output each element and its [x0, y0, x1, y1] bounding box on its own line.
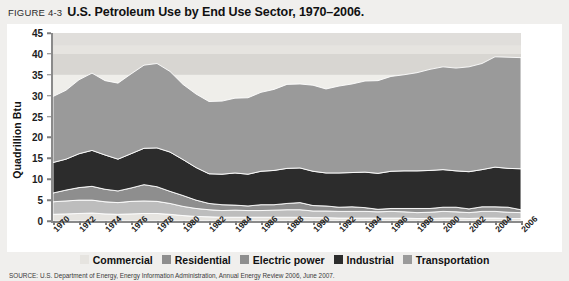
legend-swatch-icon [334, 255, 343, 264]
y-axis-tick-label: 35 [32, 69, 43, 80]
legend-item-commercial[interactable]: Commercial [80, 254, 153, 266]
legend-item-residential[interactable]: Residential [162, 254, 231, 266]
figure-source-text: SOURCE: U.S. Department of Energy, Energ… [9, 272, 335, 279]
x-axis-tick-label: 2006 [519, 214, 539, 234]
plot-area [53, 33, 521, 221]
background-band [53, 46, 521, 54]
figure-caption: FIGURE 4-3 U.S. Petroleum Use by End Use… [8, 5, 561, 21]
legend-item-industrial[interactable]: Industrial [334, 254, 394, 266]
legend-swatch-icon [240, 255, 249, 264]
chart-panel: Quadrillion Btu 051015202530354045 19701… [7, 24, 562, 252]
background-band [53, 33, 521, 46]
y-axis-tick-label: 45 [32, 28, 43, 39]
legend-swatch-icon [80, 255, 89, 264]
legend-swatch-icon [162, 255, 171, 264]
y-axis-tick-label: 0 [37, 216, 43, 227]
y-axis-tick-label: 30 [32, 90, 43, 101]
y-axis-tick-label: 25 [32, 111, 43, 122]
legend-label: Industrial [347, 254, 394, 266]
legend-label: Residential [175, 254, 231, 266]
figure-title: U.S. Petroleum Use by End Use Sector, 19… [67, 5, 364, 19]
legend-swatch-icon [403, 255, 412, 264]
legend-label: Commercial [93, 254, 153, 266]
y-axis-tick-label: 40 [32, 48, 43, 59]
y-axis-tick-label: 10 [32, 174, 43, 185]
legend-label: Transportation [416, 254, 490, 266]
legend-item-electric-power[interactable]: Electric power [240, 254, 325, 266]
legend-label: Electric power [253, 254, 325, 266]
figure-root: FIGURE 4-3 U.S. Petroleum Use by End Use… [0, 0, 569, 281]
y-axis-tick-label: 20 [32, 132, 43, 143]
stacked-area-chart [53, 33, 521, 221]
figure-source: SOURCE: U.S. Department of Energy, Energ… [9, 272, 561, 281]
chart-legend: CommercialResidentialElectric powerIndus… [0, 252, 569, 267]
y-axis-tick-label: 5 [37, 195, 43, 206]
figure-number: FIGURE 4-3 [8, 7, 62, 18]
y-axis-tick-label: 15 [32, 153, 43, 164]
legend-item-transportation[interactable]: Transportation [403, 254, 490, 266]
y-axis-ticks: 051015202530354045 [7, 24, 51, 252]
